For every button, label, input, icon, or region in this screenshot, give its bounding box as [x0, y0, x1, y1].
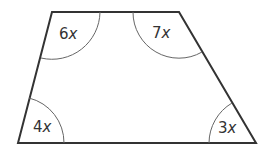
- angle-label-top-left: 6x: [59, 25, 78, 43]
- trapezoid-diagram: 6x 7x 4x 3x: [0, 0, 265, 156]
- angle-label-top-right: 7x: [152, 24, 171, 42]
- angle-label-bottom-left: 4x: [33, 118, 52, 136]
- angle-label-bottom-right: 3x: [218, 119, 237, 137]
